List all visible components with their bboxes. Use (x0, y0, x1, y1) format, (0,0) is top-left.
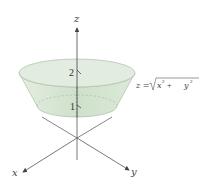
tick-label-2: 2 (69, 67, 74, 78)
x-axis-label: x (12, 167, 18, 178)
cone-frustum-diagram: z x y 2 1 z = x 2 + y 2 (0, 0, 211, 192)
y-axis-arrow (77, 138, 129, 170)
surface-equation: z = x 2 + y 2 (135, 78, 199, 90)
equation-plus: + (165, 81, 174, 90)
equation-y-exp: 2 (190, 79, 193, 84)
x-axis-arrow (23, 138, 77, 172)
y-axis-label: y (130, 166, 137, 177)
equation-lhs: z = (135, 81, 149, 90)
equation-y: y (183, 81, 189, 90)
z-axis-label: z (73, 13, 80, 24)
x-axis (42, 117, 77, 138)
axes (23, 117, 129, 172)
tick-label-1: 1 (70, 101, 75, 112)
y-axis-back (77, 117, 112, 138)
